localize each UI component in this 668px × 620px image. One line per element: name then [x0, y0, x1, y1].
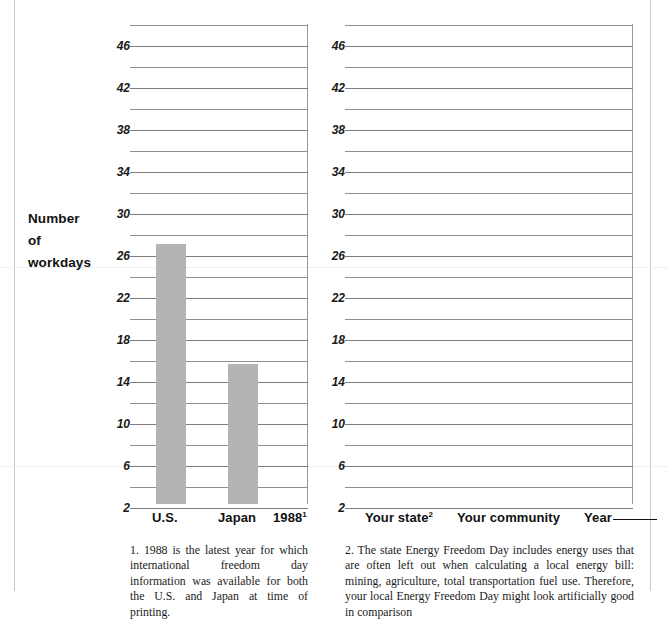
y-axis-ticks-left: 46 42 38 34 30 26 22 18 14 10 6 2 [96, 24, 130, 504]
gridline-48 [345, 25, 633, 26]
y-tick-46: 46 [311, 40, 345, 52]
y-tick-42: 42 [96, 82, 130, 94]
x-label-us: U.S. [152, 510, 178, 525]
y-tick-10: 10 [96, 418, 130, 430]
plot-area-international [130, 24, 308, 504]
x-label-your-community: Your community [457, 510, 560, 525]
footnote-2: 2. The state Energy Freedom Day includes… [345, 543, 634, 620]
y-tick-34: 34 [96, 166, 130, 178]
y-tick-2: 2 [96, 502, 130, 514]
page-edge-rule-right [650, 0, 651, 591]
x-label-year: 19881 [273, 510, 307, 525]
footnote-marker-1: 1 [302, 510, 307, 519]
gridline-10 [345, 424, 633, 425]
gridline-26 [345, 256, 633, 257]
x-label-your-state-text: Your state [365, 510, 429, 525]
y-tick-14: 14 [96, 376, 130, 388]
footnote-marker-2: 2 [429, 510, 434, 519]
y-tick-18: 18 [96, 334, 130, 346]
x-axis-labels-local: Your state2 Your community Year [345, 510, 637, 534]
y-tick-30: 30 [311, 208, 345, 220]
y-tick-34: 34 [311, 166, 345, 178]
bar-us [156, 244, 186, 504]
x-label-your-state: Your state2 [365, 510, 433, 525]
gridline-4 [345, 487, 633, 488]
gridline-44 [130, 67, 308, 68]
plot-frame-right [632, 24, 633, 504]
y-tick-30: 30 [96, 208, 130, 220]
y-tick-38: 38 [96, 124, 130, 136]
gridline-46 [130, 46, 308, 47]
gridline-46 [345, 46, 633, 47]
x-axis-labels-international: U.S. Japan 19881 [130, 510, 312, 534]
gridline-24 [345, 277, 633, 278]
gridline-2 [345, 508, 633, 509]
gridline-18 [345, 340, 633, 341]
gridline-30 [345, 214, 633, 215]
x-label-year-blank[interactable]: Year [584, 510, 657, 525]
y-tick-2: 2 [311, 502, 345, 514]
plot-frame-right [307, 24, 308, 504]
y-tick-46: 46 [96, 40, 130, 52]
y-tick-18: 18 [311, 334, 345, 346]
gridline-6 [345, 466, 633, 467]
gridline-34 [130, 172, 308, 173]
gridline-22 [345, 298, 633, 299]
gridline-42 [130, 88, 308, 89]
y-tick-22: 22 [311, 292, 345, 304]
y-tick-42: 42 [311, 82, 345, 94]
gridline-34 [345, 172, 633, 173]
plot-area-local-blank[interactable] [345, 24, 633, 504]
gridline-30 [130, 214, 308, 215]
x-label-year-text: Year [584, 510, 612, 525]
gridline-38 [130, 130, 308, 131]
y-tick-26: 26 [96, 250, 130, 262]
y-tick-6: 6 [96, 460, 130, 472]
gridline-8 [345, 445, 633, 446]
gridline-20 [345, 319, 633, 320]
bar-japan [228, 364, 258, 504]
gridline-40 [345, 109, 633, 110]
x-label-year-text: 1988 [273, 510, 302, 525]
page-edge-rule-left [14, 0, 15, 591]
gridline-38 [345, 130, 633, 131]
y-tick-22: 22 [96, 292, 130, 304]
gridline-36 [345, 151, 633, 152]
gridline-48 [130, 25, 308, 26]
footnote-1: 1. 1988 is the latest year for which int… [130, 543, 308, 620]
y-axis-ticks-right: 46 42 38 34 30 26 22 18 14 10 6 2 [311, 24, 345, 504]
y-tick-14: 14 [311, 376, 345, 388]
gridline-14 [345, 382, 633, 383]
gridline-32 [345, 193, 633, 194]
y-tick-26: 26 [311, 250, 345, 262]
gridline-2 [130, 508, 308, 509]
y-tick-38: 38 [311, 124, 345, 136]
gridline-42 [345, 88, 633, 89]
gridline-32 [130, 193, 308, 194]
y-tick-6: 6 [311, 460, 345, 472]
gridline-44 [345, 67, 633, 68]
y-tick-10: 10 [311, 418, 345, 430]
year-fill-in-blank[interactable] [613, 519, 657, 520]
gridline-40 [130, 109, 308, 110]
gridline-28 [345, 235, 633, 236]
gridline-36 [130, 151, 308, 152]
gridline-16 [345, 361, 633, 362]
x-label-japan: Japan [218, 510, 256, 525]
gridline-12 [345, 403, 633, 404]
gridline-28 [130, 235, 308, 236]
